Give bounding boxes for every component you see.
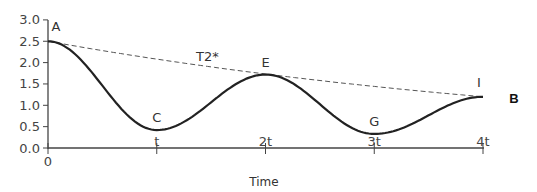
y-ticks: 0.00.51.01.52.02.53.0 (19, 12, 48, 155)
x-tick-label: 2t (259, 134, 272, 149)
chart: 0.00.51.01.52.02.53.0 0t2t3t4t ACEGI T2*… (0, 0, 537, 192)
y-tick-label: 0.5 (19, 119, 40, 134)
x-axis-title: Time (248, 175, 278, 189)
x-tick-label: 0 (44, 154, 52, 169)
point-label-c: C (152, 110, 161, 125)
y-tick-label: 2.0 (19, 55, 40, 70)
point-label-i: I (477, 75, 481, 90)
y-tick-label: 1.0 (19, 98, 40, 113)
t2-star-label: T2* (195, 49, 219, 64)
panel-label: B (509, 91, 518, 106)
y-tick-label: 3.0 (19, 12, 40, 27)
x-tick-label: 3t (368, 134, 381, 149)
x-ticks: 0t2t3t4t (44, 134, 490, 169)
y-tick-label: 1.5 (19, 76, 40, 91)
y-tick-label: 2.5 (19, 34, 40, 49)
point-label-e: E (261, 55, 269, 70)
point-label-g: G (369, 114, 379, 129)
x-tick-label: 4t (476, 134, 489, 149)
x-tick-label: t (154, 134, 159, 149)
y-tick-label: 0.0 (19, 141, 40, 156)
point-label-a: A (52, 19, 61, 34)
